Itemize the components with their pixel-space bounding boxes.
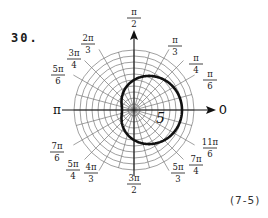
svg-text:3: 3	[175, 174, 180, 184]
svg-text:π: π	[131, 7, 137, 17]
svg-text:π: π	[193, 53, 199, 63]
angle-label-240: 4π3	[84, 162, 98, 184]
svg-text:3: 3	[88, 174, 93, 184]
svg-text:5π: 5π	[53, 64, 64, 74]
svg-text:0: 0	[219, 102, 227, 117]
angle-label-270: 3π2	[127, 173, 141, 195]
angle-label-150: 5π6	[51, 64, 65, 86]
angle-label-225: 5π4	[66, 159, 80, 181]
svg-text:π: π	[53, 103, 61, 117]
svg-text:11π: 11π	[202, 137, 219, 147]
angle-label-45: π4	[189, 53, 203, 75]
svg-text:6: 6	[55, 76, 60, 86]
angle-labels: 0π6π4π3π22π33π45π6π7π65π44π33π25π37π411π…	[50, 7, 227, 195]
svg-text:4: 4	[71, 60, 76, 70]
angle-label-60: π3	[168, 35, 182, 57]
svg-text:5π: 5π	[68, 159, 79, 169]
svg-text:6: 6	[207, 81, 212, 91]
svg-text:6: 6	[54, 153, 59, 163]
svg-text:3: 3	[85, 45, 90, 55]
angle-label-135: 3π4	[67, 48, 81, 70]
angle-label-315: 7π4	[189, 154, 203, 176]
svg-text:5π: 5π	[173, 162, 184, 172]
svg-text:4π: 4π	[86, 162, 97, 172]
svg-text:7π: 7π	[52, 141, 63, 151]
angle-label-210: 7π6	[50, 141, 64, 163]
angle-label-90: π2	[127, 7, 141, 29]
svg-text:6: 6	[207, 149, 212, 159]
angle-label-30: π6	[203, 69, 217, 91]
svg-text:π: π	[172, 35, 178, 45]
radius-label: 5	[156, 110, 165, 126]
svg-text:2: 2	[131, 19, 136, 29]
polar-plot: 0π6π4π3π22π33π45π6π7π65π44π33π25π37π411π…	[0, 0, 268, 218]
svg-text:7π: 7π	[191, 154, 202, 164]
angle-label-330: 11π6	[202, 137, 219, 159]
angle-label-180: π	[53, 103, 61, 117]
svg-text:π: π	[207, 69, 213, 79]
svg-text:4: 4	[193, 166, 198, 176]
svg-text:4: 4	[70, 171, 75, 181]
svg-text:2π: 2π	[83, 33, 94, 43]
svg-text:3π: 3π	[69, 48, 80, 58]
svg-text:3: 3	[172, 47, 177, 57]
svg-text:4: 4	[193, 65, 198, 75]
angle-label-300: 5π3	[171, 162, 185, 184]
svg-text:2: 2	[131, 185, 136, 195]
svg-text:3π: 3π	[129, 173, 140, 183]
angle-label-0: 0	[219, 102, 227, 117]
angle-label-120: 2π3	[81, 33, 95, 55]
